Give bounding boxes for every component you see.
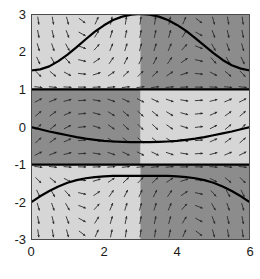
- plot-area: [31, 14, 250, 240]
- xtick-label-2: 2: [91, 245, 117, 258]
- shade-band-0-right: [141, 14, 251, 89]
- xtick-label-4: 4: [164, 245, 190, 258]
- ytick-label-1: 1: [0, 83, 26, 96]
- xtick-label-0: 0: [18, 245, 44, 258]
- ytick-label-0: 0: [0, 121, 26, 134]
- ytick-label-neg2: -2: [0, 196, 26, 209]
- ytick-label-2: 2: [0, 45, 26, 58]
- chart-figure: 3 2 1 0 -1 -2 -3 0 2 4 6: [0, 0, 260, 279]
- shade-band-0-left: [31, 14, 141, 89]
- slope-field-svg: [31, 14, 250, 240]
- ytick-label-3: 3: [0, 8, 26, 21]
- xtick-label-6: 6: [237, 245, 260, 258]
- ytick-label-neg1: -1: [0, 158, 26, 171]
